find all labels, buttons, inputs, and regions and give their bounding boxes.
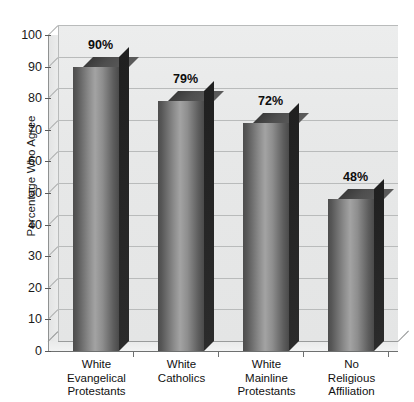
bar-value-label: 72% (258, 94, 283, 108)
y-axis-tick-label: 20 (8, 281, 42, 295)
x-axis-category-line: White (67, 358, 126, 372)
bar-value-label: 90% (88, 38, 113, 52)
bar (328, 199, 374, 351)
x-axis-category-line: Protestants (67, 385, 126, 399)
y-axis-tick-mark (45, 130, 51, 131)
x-axis-category-line: Religious (328, 372, 375, 386)
x-axis-category-line: Protestants (237, 385, 295, 399)
x-axis-tick-mark (388, 351, 389, 357)
bar-top-face (168, 91, 224, 101)
x-axis-category-line: Evangelical (67, 372, 126, 386)
y-axis-tick-label: 100 (8, 28, 42, 42)
y-axis-tick-mark (45, 288, 51, 289)
bar (158, 101, 204, 351)
y-axis-tick-mark (45, 256, 51, 257)
bar-side-face (204, 81, 214, 351)
x-axis-category-label: WhiteMainlineProtestants (237, 358, 295, 399)
x-axis-tick-mark (218, 351, 219, 357)
bar-top-face (83, 57, 139, 67)
x-axis-category-line: Affiliation (328, 385, 375, 399)
x-axis-category-label: WhiteEvangelicalProtestants (67, 358, 126, 399)
x-axis-tick-mark (133, 351, 134, 357)
bar (73, 67, 119, 351)
bar-top-face (338, 189, 394, 199)
x-axis-tick-mark (303, 351, 304, 357)
y-axis-title: Percentage Who Agree (25, 81, 37, 271)
y-axis-tick-label: 90 (8, 60, 42, 74)
x-axis-category-label: WhiteCatholics (158, 358, 205, 385)
y-axis-tick-mark (45, 98, 51, 99)
bar-chart: 0102030405060708090100 90%79%72%48% Whit… (0, 0, 414, 402)
x-axis-category-line: White (158, 358, 205, 372)
x-axis-category-label: NoReligiousAffiliation (328, 358, 375, 399)
x-axis-category-line: White (237, 358, 295, 372)
bar-front-face (328, 199, 374, 351)
x-axis-category-line: No (328, 358, 375, 372)
bar-side-face (374, 179, 384, 351)
y-axis-tick-mark (45, 193, 51, 194)
x-axis-line (48, 351, 398, 352)
x-axis-category-line: Catholics (158, 372, 205, 386)
bar (243, 123, 289, 351)
y-axis-tick-mark (45, 225, 51, 226)
bar-front-face (243, 123, 289, 351)
bar-front-face (158, 101, 204, 351)
bar-value-label: 48% (343, 170, 368, 184)
floor-right-edge (398, 331, 409, 342)
bar-side-face (289, 103, 299, 351)
y-axis-tick-label: 10 (8, 312, 42, 326)
y-axis-tick-mark (45, 67, 51, 68)
y-axis-tick-mark (45, 351, 51, 352)
bar-value-label: 79% (173, 72, 198, 86)
y-axis-tick-mark (45, 319, 51, 320)
y-axis-tick-label: 0 (8, 344, 42, 358)
bar-front-face (73, 67, 119, 351)
x-axis-category-line: Mainline (237, 372, 295, 386)
y-axis-tick-mark (45, 161, 51, 162)
gridline (58, 25, 398, 26)
bar-side-face (119, 47, 129, 351)
y-axis-tick-mark (45, 35, 51, 36)
